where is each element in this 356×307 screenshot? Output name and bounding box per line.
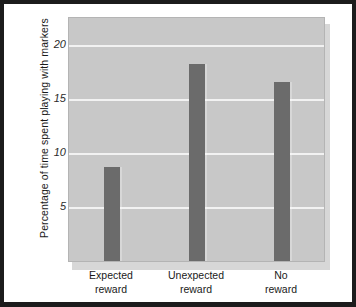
x-tick-label-line2: reward bbox=[63, 282, 159, 296]
y-tick-label-5: 5 bbox=[40, 200, 66, 212]
plot-area bbox=[68, 17, 325, 262]
x-tick-label-line1: No bbox=[233, 268, 329, 282]
x-tick-label-line1: Expected bbox=[63, 268, 159, 282]
x-tick-label-line2: reward bbox=[233, 282, 329, 296]
bar-chart-figure: Percentage of time spent playing with ma… bbox=[4, 4, 352, 302]
x-tick-label-unexpected-reward: Unexpected reward bbox=[148, 268, 244, 296]
y-tick-label-15: 15 bbox=[40, 92, 66, 104]
gridline-20 bbox=[69, 45, 324, 47]
y-axis-ticks: 20 15 10 5 bbox=[34, 17, 66, 262]
x-tick-label-expected-reward: Expected reward bbox=[63, 268, 159, 296]
x-tick-label-no-reward: No reward bbox=[233, 268, 329, 296]
figure-page: Percentage of time spent playing with ma… bbox=[0, 0, 356, 307]
bar-expected-reward bbox=[104, 167, 120, 261]
x-axis-ticks: Expected reward Unexpected reward No rew… bbox=[68, 268, 325, 302]
bar-unexpected-reward bbox=[189, 64, 205, 261]
y-tick-label-20: 20 bbox=[40, 38, 66, 50]
y-tick-label-10: 10 bbox=[40, 146, 66, 158]
figure-page-inner: Percentage of time spent playing with ma… bbox=[4, 4, 352, 302]
x-tick-label-line1: Unexpected bbox=[148, 268, 244, 282]
bar-no-reward bbox=[274, 82, 290, 261]
x-tick-label-line2: reward bbox=[148, 282, 244, 296]
